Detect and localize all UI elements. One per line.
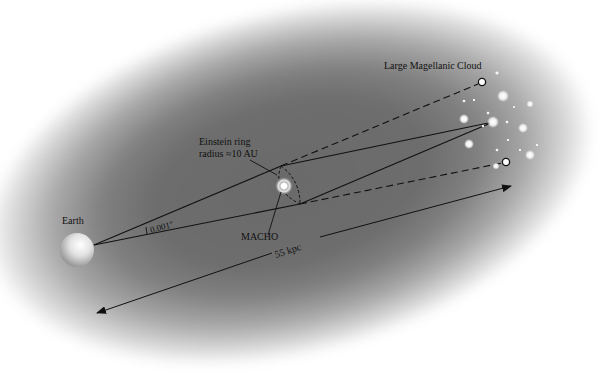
einstein-ring-leader bbox=[250, 160, 277, 175]
earth bbox=[60, 233, 94, 267]
distance-arrow bbox=[97, 186, 511, 313]
earth-label: Earth bbox=[62, 215, 84, 226]
einstein-ring-label-line1: Einstein ring bbox=[199, 136, 250, 147]
macho-icon bbox=[275, 177, 293, 195]
macho-leader bbox=[268, 192, 281, 235]
ray-to-image-upper bbox=[281, 84, 478, 166]
ray-ring-to-source-upper bbox=[281, 122, 493, 166]
source-star bbox=[487, 116, 499, 128]
apparent-image-lower bbox=[502, 158, 509, 165]
angle-label: 0.001″ bbox=[149, 219, 175, 235]
distance-label: 55 kpc bbox=[273, 241, 303, 260]
apparent-image-upper bbox=[478, 78, 485, 85]
ray-to-image-lower bbox=[300, 163, 502, 204]
macho-label: MACHO bbox=[241, 231, 278, 242]
ray-ring-to-source-lower bbox=[300, 122, 493, 204]
einstein-ring-label-line2: radius ≈10 AU bbox=[199, 148, 259, 159]
earth-icon bbox=[60, 233, 94, 267]
lmc-star-field bbox=[459, 71, 539, 170]
lmc-label: Large Magellanic Cloud bbox=[384, 60, 482, 71]
angle-marker bbox=[146, 227, 147, 234]
